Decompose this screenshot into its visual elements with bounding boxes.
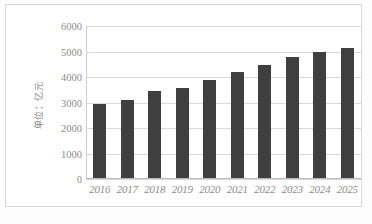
bar-chart-figure: 单位：亿元 0100020003000400050006000 20162017… bbox=[0, 0, 372, 224]
bar bbox=[93, 104, 106, 179]
bar bbox=[258, 65, 271, 179]
bar bbox=[231, 72, 244, 179]
x-axis-line bbox=[86, 178, 361, 179]
bar bbox=[176, 88, 189, 179]
x-axis-tick-label: 2022 bbox=[251, 183, 279, 195]
bars-layer bbox=[86, 26, 361, 179]
x-axis-tick-label: 2017 bbox=[113, 183, 141, 195]
x-axis-tick-label: 2021 bbox=[223, 183, 251, 195]
y-axis-title-label: 单位：亿元 bbox=[33, 81, 46, 129]
x-axis-tick-label: 2016 bbox=[86, 183, 114, 195]
bar bbox=[286, 57, 299, 179]
x-axis-tick-label: 2019 bbox=[168, 183, 196, 195]
x-axis-tick-label: 2020 bbox=[196, 183, 224, 195]
y-axis-tick-label: 3000 bbox=[48, 98, 82, 109]
y-axis-title: 单位：亿元 bbox=[30, 65, 48, 145]
bar bbox=[121, 100, 134, 179]
bar bbox=[148, 91, 161, 179]
y-axis-tick-label: 5000 bbox=[48, 47, 82, 58]
y-axis-tick-label: 0 bbox=[48, 174, 82, 185]
y-axis-tick-label: 6000 bbox=[48, 21, 82, 32]
x-axis-tick-labels: 2016201720182019202020212022202320242025 bbox=[86, 183, 361, 203]
bar bbox=[313, 52, 326, 179]
y-axis-tick-labels: 0100020003000400050006000 bbox=[48, 19, 82, 185]
x-axis-tick-label: 2023 bbox=[278, 183, 306, 195]
plot-area bbox=[86, 26, 361, 179]
chart-frame: 单位：亿元 0100020003000400050006000 20162017… bbox=[5, 4, 362, 207]
y-axis-tick-label: 4000 bbox=[48, 72, 82, 83]
x-axis-tick-label: 2024 bbox=[306, 183, 334, 195]
y-axis-tick-label: 2000 bbox=[48, 123, 82, 134]
x-axis-tick-label: 2025 bbox=[333, 183, 361, 195]
bar bbox=[341, 48, 354, 179]
x-axis-tick-label: 2018 bbox=[141, 183, 169, 195]
gridline bbox=[86, 179, 361, 180]
bar bbox=[203, 80, 216, 179]
y-axis-tick-label: 1000 bbox=[48, 149, 82, 160]
